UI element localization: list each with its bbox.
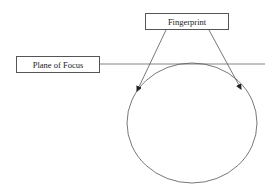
diagram-canvas [0,0,277,189]
fingerprint-label: Fingerprint [168,17,206,27]
left-arrow [137,30,166,91]
fingerprint-label-box: Fingerprint [145,13,229,30]
curved-surface-ellipse [127,63,257,183]
plane-of-focus-label: Plane of Focus [33,60,84,70]
right-arrow [209,30,241,89]
plane-of-focus-label-box: Plane of Focus [16,56,100,73]
